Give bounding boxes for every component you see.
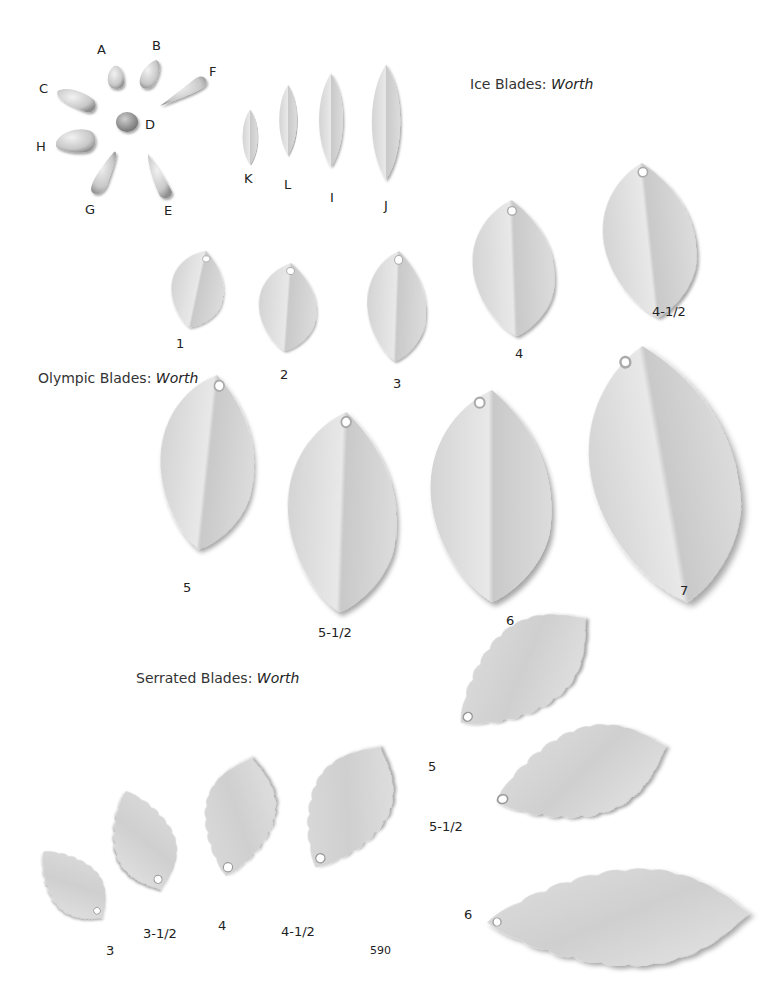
ice-blade-J — [372, 65, 400, 180]
serrated-blade-3-1/2 — [97, 781, 190, 901]
label-bead-E: E — [164, 203, 172, 218]
label-bead-A: A — [97, 42, 106, 57]
label-bead-F: F — [209, 64, 216, 79]
olympic-blade-7 — [570, 334, 757, 615]
olympic-blade-5-1/2 — [284, 410, 400, 614]
label-serrated-3: 3 — [106, 943, 114, 958]
bead-E — [148, 154, 172, 198]
olympic-blade-1 — [163, 245, 231, 332]
label-serrated-6: 6 — [464, 907, 472, 922]
label-olympic-3: 3 — [393, 376, 401, 391]
ice-blade-K — [243, 110, 258, 165]
label-bead-C: C — [39, 81, 48, 96]
title-text: Ice Blades — [470, 76, 542, 92]
brand-name: Worth — [551, 76, 594, 92]
label-olympic-7: 7 — [680, 583, 688, 598]
page-number: 590 — [370, 944, 391, 957]
label-olympic-1: 1 — [176, 336, 184, 351]
label-ice-L: L — [284, 177, 291, 192]
label-serrated-5: 5 — [428, 759, 436, 774]
label-serrated-4-1/2: 4-1/2 — [281, 924, 315, 939]
label-olympic-2: 2 — [280, 367, 288, 382]
label-olympic-6: 6 — [506, 613, 514, 628]
label-olympic-5-1/2: 5-1/2 — [318, 625, 352, 640]
title-separator: : — [542, 76, 547, 92]
olympic-blade-3 — [365, 250, 428, 362]
olympic-blade-5 — [151, 370, 263, 554]
serrated-blade-6 — [485, 864, 751, 971]
label-ice-J: J — [384, 198, 388, 213]
brand-name: Worth — [257, 670, 300, 686]
label-ice-K: K — [244, 171, 253, 186]
bead-G — [91, 152, 116, 194]
blade-illustrations — [0, 0, 760, 1007]
bead-C — [57, 89, 95, 112]
label-olympic-4-1/2: 4-1/2 — [652, 304, 686, 319]
section-title-serrated: Serrated Blades: Worth — [136, 670, 299, 686]
label-serrated-3-1/2: 3-1/2 — [143, 926, 177, 941]
bead-H — [56, 129, 95, 152]
ice-blade-L — [279, 85, 297, 155]
serrated-blade-5-1/2 — [482, 704, 679, 843]
bead-D — [116, 112, 138, 132]
label-ice-I: I — [330, 190, 334, 205]
label-serrated-5-1/2: 5-1/2 — [429, 819, 463, 834]
title-separator: : — [147, 370, 152, 386]
bead-A — [108, 66, 124, 89]
label-bead-B: B — [152, 38, 161, 53]
title-separator: : — [248, 670, 253, 686]
section-title-olympic: Olympic Blades: Worth — [38, 370, 198, 386]
ice-blade-I — [319, 74, 343, 167]
label-serrated-4: 4 — [218, 918, 226, 933]
label-bead-H: H — [36, 139, 46, 154]
label-olympic-5: 5 — [183, 580, 191, 595]
brand-name: Worth — [156, 370, 199, 386]
label-bead-D: D — [145, 117, 155, 132]
olympic-blade-2 — [256, 261, 320, 353]
bead-F — [160, 76, 206, 106]
serrated-blade-4 — [192, 751, 286, 884]
label-bead-G: G — [85, 202, 95, 217]
title-text: Olympic Blades — [38, 370, 147, 386]
serrated-blade-3 — [24, 834, 122, 935]
olympic-blade-6 — [431, 390, 552, 602]
section-title-ice: Ice Blades: Worth — [470, 76, 593, 92]
title-text: Serrated Blades — [136, 670, 248, 686]
label-olympic-4: 4 — [515, 346, 523, 361]
serrated-blade-4-1/2 — [280, 728, 414, 886]
olympic-blade-4-1/2 — [596, 158, 703, 322]
olympic-blade-4 — [470, 199, 556, 338]
bead-B — [140, 60, 160, 89]
